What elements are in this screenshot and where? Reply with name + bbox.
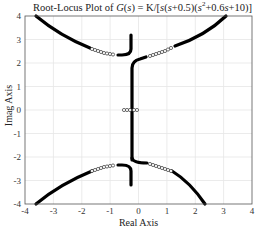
svg-text:-2: -2 xyxy=(14,152,22,162)
svg-text:3: 3 xyxy=(221,206,226,216)
svg-text:-2: -2 xyxy=(78,206,86,216)
svg-text:-1: -1 xyxy=(106,206,114,216)
svg-text:0: 0 xyxy=(17,105,22,115)
svg-text:-3: -3 xyxy=(14,176,22,186)
svg-text:1: 1 xyxy=(165,206,170,216)
svg-text:3: 3 xyxy=(17,35,22,45)
svg-text:-4: -4 xyxy=(14,199,22,209)
svg-text:-3: -3 xyxy=(50,206,58,216)
x-axis-label: Real Axis xyxy=(25,217,252,228)
svg-text:-4: -4 xyxy=(21,206,29,216)
svg-text:1: 1 xyxy=(17,82,22,92)
y-tick-labels: 4 3 2 1 0 -1 -2 -3 -4 xyxy=(14,11,22,209)
svg-text:2: 2 xyxy=(17,58,22,68)
x-tick-labels: -4 -3 -2 -1 0 1 2 3 4 xyxy=(21,206,255,216)
svg-text:4: 4 xyxy=(17,11,22,21)
root-locus-plot: -4 -3 -2 -1 0 1 2 3 4 4 3 2 1 0 -1 -2 -3… xyxy=(0,0,257,231)
y-axis-label: Imag Axis xyxy=(3,76,14,136)
svg-text:0: 0 xyxy=(136,206,141,216)
svg-text:2: 2 xyxy=(193,206,198,216)
svg-text:-1: -1 xyxy=(14,129,22,139)
svg-text:4: 4 xyxy=(250,206,255,216)
